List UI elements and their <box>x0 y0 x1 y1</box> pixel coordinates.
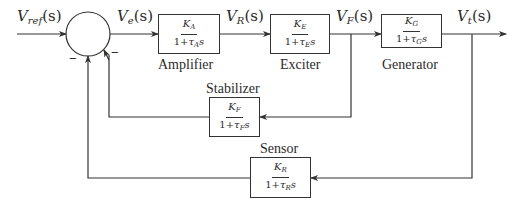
minus-sign-stabilizer: − <box>111 46 119 59</box>
signal-label-vf: VF(s) <box>336 9 373 28</box>
generator-label: Generator <box>382 58 438 72</box>
amplifier-label: Amplifier <box>158 58 213 72</box>
signal-label-vr: VR(s) <box>226 9 264 28</box>
exciter-label: Exciter <box>280 58 320 72</box>
signal-label-vt: Vt(s) <box>457 9 491 28</box>
exciter-transfer-function: KE 1+τEs <box>285 18 316 51</box>
generator-transfer-function: KG 1+τGs <box>396 15 427 48</box>
generator-block: KG 1+τGs <box>381 14 442 48</box>
signal-label-vref: Vref(s) <box>17 9 62 28</box>
stabilizer-transfer-function: KF 1+τFs <box>219 101 249 134</box>
signal-label-ve: Ve(s) <box>117 9 153 28</box>
stabilizer-label: Stabilizer <box>206 82 260 96</box>
amplifier-block: KA 1+τAs <box>158 14 220 54</box>
sensor-transfer-function: KR 1+τRs <box>265 161 296 194</box>
sensor-block: KR 1+τRs <box>250 157 311 198</box>
minus-sign-sensor: − <box>69 52 77 65</box>
amplifier-transfer-function: KA 1+τAs <box>174 18 205 51</box>
summing-junction <box>66 12 110 56</box>
sensor-label: Sensor <box>260 142 298 156</box>
exciter-block: KE 1+τEs <box>270 14 330 54</box>
stabilizer-feedback-arrow <box>104 50 109 60</box>
sensor-in-wire <box>311 34 472 178</box>
stabilizer-block: KF 1+τFs <box>209 97 260 137</box>
